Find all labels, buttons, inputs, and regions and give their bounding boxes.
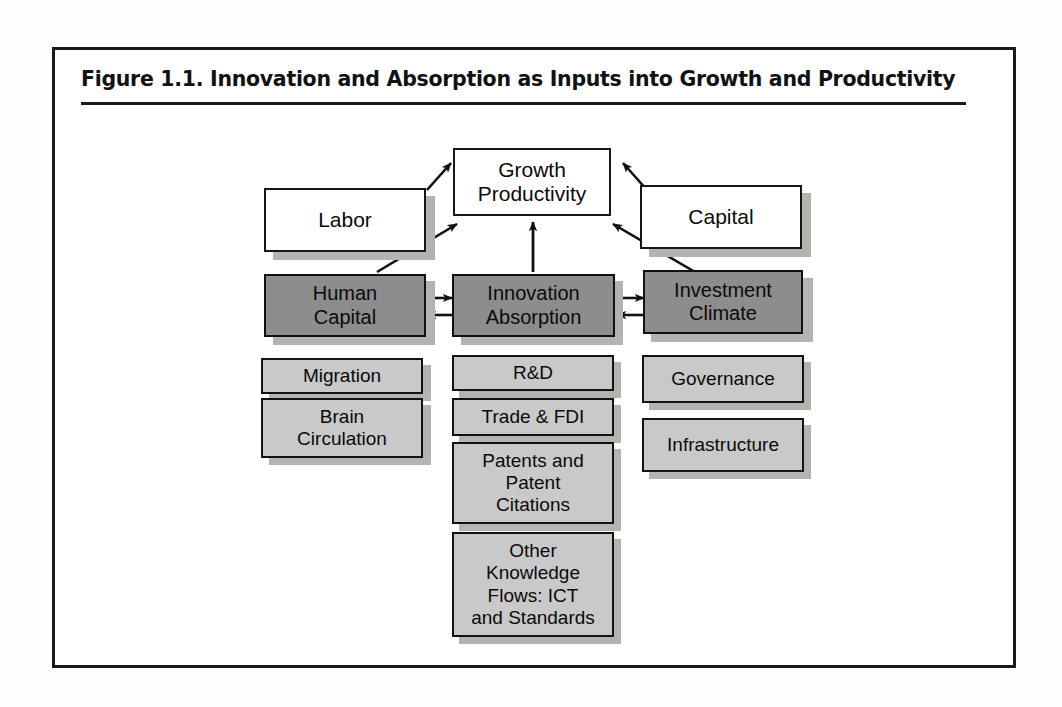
node-trade-fdi[interactable]: Trade & FDI	[452, 398, 614, 436]
node-brain-circulation-label: BrainCirculation	[297, 406, 387, 450]
node-capital[interactable]: Capital	[640, 185, 802, 249]
node-migration[interactable]: Migration	[261, 358, 423, 394]
node-labor[interactable]: Labor	[264, 188, 426, 252]
node-investment-climate[interactable]: InvestmentClimate	[643, 270, 803, 334]
node-growth-productivity-label: GrowthProductivity	[478, 158, 587, 207]
node-innovation-absorption-label: InnovationAbsorption	[486, 282, 582, 328]
node-rd-label: R&D	[513, 362, 553, 384]
node-labor-label: Labor	[318, 208, 372, 232]
node-infrastructure[interactable]: Infrastructure	[642, 418, 804, 472]
node-infrastructure-label: Infrastructure	[667, 434, 779, 456]
node-innovation-absorption[interactable]: InnovationAbsorption	[452, 274, 615, 337]
figure-frame: Figure 1.1. Innovation and Absorption as…	[52, 47, 1016, 668]
node-investment-climate-label: InvestmentClimate	[674, 279, 772, 325]
node-migration-label: Migration	[303, 365, 381, 387]
node-other-knowledge-flows[interactable]: OtherKnowledgeFlows: ICTand Standards	[452, 532, 614, 637]
node-capital-label: Capital	[688, 205, 753, 229]
node-governance-label: Governance	[671, 368, 775, 390]
node-trade-fdi-label: Trade & FDI	[482, 406, 585, 428]
arrow-labor-to-growth	[427, 163, 451, 190]
node-rd[interactable]: R&D	[452, 355, 614, 391]
node-patents-and-patent-citations[interactable]: Patents andPatentCitations	[452, 442, 614, 524]
page-canvas: Figure 1.1. Innovation and Absorption as…	[0, 0, 1062, 707]
node-patents-and-patent-citations-label: Patents andPatentCitations	[482, 450, 583, 516]
node-governance[interactable]: Governance	[642, 355, 804, 403]
flow-diagram: Labor GrowthProductivity Capital HumanCa…	[55, 50, 1019, 671]
node-human-capital[interactable]: HumanCapital	[264, 274, 426, 337]
node-brain-circulation[interactable]: BrainCirculation	[261, 398, 423, 458]
node-human-capital-label: HumanCapital	[313, 282, 377, 328]
node-growth-productivity[interactable]: GrowthProductivity	[453, 148, 611, 216]
node-other-knowledge-flows-label: OtherKnowledgeFlows: ICTand Standards	[471, 540, 595, 628]
